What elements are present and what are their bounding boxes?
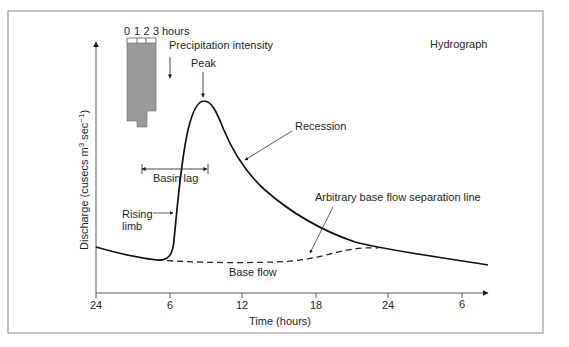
chart-title: Hydrograph [430, 38, 487, 50]
hyetograph-tick: 1 [134, 25, 140, 37]
x-tick-label: 12 [236, 299, 248, 311]
base-flow-line [157, 248, 378, 263]
x-axis-title: Time (hours) [249, 315, 311, 327]
hyetograph: 0 1 2 3 hours Precipitation intensity [124, 25, 274, 127]
hyetograph-unit: hours [162, 25, 190, 37]
separation-line-label: Arbitrary base flow separation line [315, 191, 481, 203]
x-tick-label: 6 [167, 299, 173, 311]
recession-arrow [245, 131, 292, 160]
hyetograph-tick: 0 [124, 25, 130, 37]
hydrograph-diagram: 24 6 12 18 24 6 Time (hours) Discharge (… [0, 0, 569, 347]
x-tick-label: 18 [310, 299, 322, 311]
y-axis-title: Discharge (cusecs m3 sec−1) [77, 110, 90, 250]
rising-limb-label: Rising [122, 208, 153, 220]
rising-limb-label-2: limb [122, 220, 142, 232]
separation-line-arrow [310, 207, 333, 253]
hyetograph-tick: 3 [153, 25, 159, 37]
hyetograph-tick: 2 [143, 25, 149, 37]
hyetograph-scale-ticks [127, 38, 156, 43]
x-axis-ticks [96, 293, 462, 298]
peak-label: Peak [191, 57, 217, 69]
base-flow-label: Base flow [229, 266, 277, 278]
precipitation-bar [127, 43, 156, 127]
x-tick-label: 24 [382, 299, 394, 311]
basin-lag-label: Basin lag [153, 172, 198, 184]
precipitation-intensity-label: Precipitation intensity [169, 39, 273, 51]
x-tick-label: 24 [90, 299, 102, 311]
x-tick-label: 6 [459, 298, 465, 310]
recession-label: Recession [295, 120, 346, 132]
